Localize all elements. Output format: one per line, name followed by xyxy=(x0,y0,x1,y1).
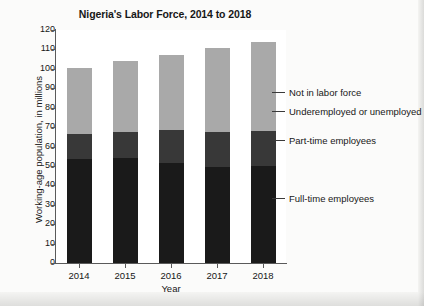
callout-label: Full-time employees xyxy=(289,193,374,204)
bar-segment xyxy=(205,48,230,132)
chart-title: Nigeria's Labor Force, 2014 to 2018 xyxy=(0,8,330,20)
bar-segment xyxy=(113,61,138,132)
y-tick-label: 10 xyxy=(18,238,55,250)
y-tick-mark xyxy=(51,244,55,245)
callout-leader-line xyxy=(272,92,285,93)
bar-2017[interactable] xyxy=(205,30,230,263)
y-axis-line xyxy=(55,29,56,264)
x-tick-mark xyxy=(171,264,172,268)
bar-segment xyxy=(159,130,184,163)
y-tick-mark xyxy=(51,30,55,31)
chart-canvas: Nigeria's Labor Force, 2014 to 2018 Work… xyxy=(0,0,418,292)
y-tick-label: 90 xyxy=(18,82,55,94)
y-tick-mark xyxy=(51,88,55,89)
callout-leader-line xyxy=(272,111,285,112)
x-tick-label-2017: 2017 xyxy=(194,270,240,281)
x-tick-label-2015: 2015 xyxy=(102,270,148,281)
bar-segment xyxy=(205,132,230,167)
scan-edge-right xyxy=(418,0,424,306)
y-tick-label: 0 xyxy=(18,257,55,269)
bar-2014[interactable] xyxy=(67,30,92,263)
callout-label: Underemployed or unemployed xyxy=(289,106,422,117)
callout-1: Underemployed or unemployed xyxy=(272,105,422,119)
callout-label: Part-time employees xyxy=(289,135,376,146)
bar-segment xyxy=(67,68,92,134)
y-tick-label: 80 xyxy=(18,102,55,114)
bar-segment xyxy=(67,159,92,263)
y-tick-label: 120 xyxy=(18,24,55,36)
callout-2: Part-time employees xyxy=(272,134,376,148)
bar-segment xyxy=(113,158,138,263)
scan-edge-bottom xyxy=(0,292,424,306)
y-tick-label: 70 xyxy=(18,121,55,133)
callout-leader-line xyxy=(272,198,285,199)
y-tick-mark xyxy=(51,205,55,206)
chart-page: Nigeria's Labor Force, 2014 to 2018 Work… xyxy=(0,0,424,306)
bar-segment xyxy=(159,55,184,130)
y-tick-mark xyxy=(51,185,55,186)
y-tick-label: 30 xyxy=(18,199,55,211)
y-tick-mark xyxy=(51,108,55,109)
y-tick-mark xyxy=(51,147,55,148)
y-tick-mark xyxy=(51,166,55,167)
y-tick-mark xyxy=(51,224,55,225)
y-tick-mark xyxy=(51,263,55,264)
x-tick-label-2014: 2014 xyxy=(56,270,102,281)
bar-segment xyxy=(67,134,92,159)
y-tick-label: 50 xyxy=(18,160,55,172)
y-tick-label: 20 xyxy=(18,218,55,230)
callout-0: Not in labor force xyxy=(272,85,361,99)
x-tick-mark xyxy=(263,264,264,268)
callout-label: Not in labor force xyxy=(289,87,361,98)
y-tick-mark xyxy=(51,49,55,50)
y-tick-mark xyxy=(51,69,55,70)
y-tick-label: 40 xyxy=(18,179,55,191)
x-tick-mark xyxy=(217,264,218,268)
bar-segment xyxy=(113,132,138,158)
bar-2016[interactable] xyxy=(159,30,184,263)
bar-segment xyxy=(251,166,276,263)
callout-3: Full-time employees xyxy=(272,192,374,206)
y-tick-mark xyxy=(51,127,55,128)
bar-segment xyxy=(159,163,184,263)
x-tick-mark xyxy=(79,264,80,268)
y-tick-label: 100 xyxy=(18,63,55,75)
y-tick-label: 60 xyxy=(18,141,55,153)
x-tick-mark xyxy=(125,264,126,268)
callout-leader-line xyxy=(272,140,285,141)
bar-2015[interactable] xyxy=(113,30,138,263)
y-tick-label: 110 xyxy=(18,43,55,55)
x-tick-label-2016: 2016 xyxy=(148,270,194,281)
x-tick-label-2018: 2018 xyxy=(240,270,286,281)
bar-segment xyxy=(205,167,230,263)
